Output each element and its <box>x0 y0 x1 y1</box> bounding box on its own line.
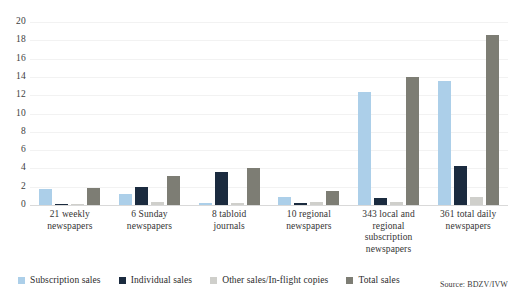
bar <box>470 197 483 205</box>
x-axis-label-line: 8 tabloid <box>190 209 268 221</box>
bar <box>151 202 164 205</box>
x-axis-label-line: 361 total daily <box>429 209 507 221</box>
bar <box>119 194 132 205</box>
bar <box>486 35 499 205</box>
legend-swatch-icon <box>210 277 217 284</box>
x-axis-label: 8 tabloidjournals <box>189 209 269 261</box>
x-axis-label: 21 weeklynewspapers <box>30 209 110 261</box>
bar <box>231 203 244 205</box>
bar <box>199 203 212 205</box>
bar <box>454 166 467 205</box>
bar <box>358 92 371 205</box>
x-axis-label-line: 21 weekly <box>31 209 109 221</box>
plot-area <box>30 22 508 205</box>
y-axis-tick: 10 <box>0 109 26 119</box>
bar <box>326 191 339 205</box>
legend-item[interactable]: Other sales/In-flight copies <box>210 275 328 285</box>
y-axis-tick: 2 <box>0 182 26 192</box>
bar <box>39 189 52 205</box>
y-axis-tick: 6 <box>0 145 26 155</box>
legend-item[interactable]: Total sales <box>346 275 399 285</box>
y-axis-tick: 12 <box>0 90 26 100</box>
x-axis-label-line: subscription <box>350 232 428 244</box>
bar <box>438 81 451 205</box>
bar <box>374 198 387 205</box>
x-axis-label-line: 343 local and <box>350 209 428 221</box>
legend-swatch-icon <box>119 277 126 284</box>
bar-group <box>189 22 269 205</box>
legend-swatch-icon <box>18 277 25 284</box>
x-axis-label-line: 10 regional <box>270 209 348 221</box>
x-axis-label: 10 regionalnewspapers <box>269 209 349 261</box>
source-note: Source: BDZV/IVW <box>440 280 508 289</box>
x-axis-label-line: newspapers <box>111 221 189 233</box>
x-axis-label-line: regional <box>350 221 428 233</box>
legend-swatch-icon <box>346 277 353 284</box>
bar-group <box>428 22 508 205</box>
bar-chart: 20181614121086420 21 weeklynewspapers6 S… <box>0 0 516 306</box>
x-axis-label: 361 total dailynewspapers <box>428 209 508 261</box>
bar <box>135 187 148 205</box>
bar <box>406 77 419 205</box>
x-axis-label-line: journals <box>190 221 268 233</box>
bar <box>215 172 228 205</box>
y-axis-tick: 8 <box>0 127 26 137</box>
bar-group <box>349 22 429 205</box>
x-axis-label-line: newspapers <box>350 244 428 256</box>
x-axis-label-line: 6 Sunday <box>111 209 189 221</box>
x-axis-label: 343 local andregionalsubscriptionnewspap… <box>349 209 429 261</box>
legend-item[interactable]: Subscription sales <box>18 275 101 285</box>
x-axis-label-line: newspapers <box>429 221 507 233</box>
bar <box>278 197 291 205</box>
y-axis-tick: 14 <box>0 72 26 82</box>
bar-group <box>269 22 349 205</box>
y-axis-tick: 16 <box>0 54 26 64</box>
legend-label: Total sales <box>358 275 399 285</box>
y-axis-tick: 0 <box>0 200 26 210</box>
bar <box>71 204 84 205</box>
y-axis-tick: 18 <box>0 36 26 46</box>
y-axis-tick: 20 <box>0 17 26 27</box>
bar <box>310 202 323 205</box>
bar <box>87 188 100 205</box>
legend-label: Individual sales <box>131 275 193 285</box>
axis-baseline <box>30 205 508 206</box>
x-axis-labels: 21 weeklynewspapers6 Sundaynewspapers8 t… <box>30 209 508 261</box>
y-axis: 20181614121086420 <box>0 22 26 205</box>
x-axis-label-line: newspapers <box>31 221 109 233</box>
legend-item[interactable]: Individual sales <box>119 275 193 285</box>
legend-label: Subscription sales <box>30 275 101 285</box>
bar <box>55 204 68 205</box>
y-axis-tick: 4 <box>0 164 26 174</box>
bar-group <box>30 22 110 205</box>
x-axis-label: 6 Sundaynewspapers <box>110 209 190 261</box>
bar-group <box>110 22 190 205</box>
bar <box>390 202 403 205</box>
chart-legend: Subscription salesIndividual salesOther … <box>0 272 438 288</box>
bar <box>167 176 180 205</box>
legend-label: Other sales/In-flight copies <box>222 275 328 285</box>
x-axis-label-line: newspapers <box>270 221 348 233</box>
bar <box>294 203 307 205</box>
bar <box>247 168 260 205</box>
